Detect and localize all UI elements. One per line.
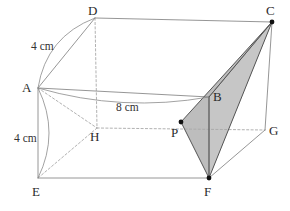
vertex-label-e: E xyxy=(32,185,40,198)
vertex-dot-C xyxy=(270,20,275,25)
hidden-edge-AH xyxy=(38,88,97,128)
vertex-label-f: F xyxy=(204,185,211,198)
cuboid-diagram: ABCDEFGHP4 cm4 cm8 cm xyxy=(0,0,290,211)
hidden-edge-HG xyxy=(97,128,265,130)
vertex-dot-P xyxy=(179,120,184,125)
vertex-label-h: H xyxy=(90,130,99,143)
diagram-canvas xyxy=(0,0,290,211)
dimension-label-ae-length: 4 cm xyxy=(14,133,37,145)
dimension-label-ab-length: 8 cm xyxy=(116,102,139,114)
vertex-label-a: A xyxy=(22,81,31,94)
edge-AD xyxy=(38,18,95,88)
dimension-arc-ae-length xyxy=(38,88,49,178)
hidden-edge-DH xyxy=(95,18,97,128)
edge-AB xyxy=(38,88,209,97)
dimension-label-ad-length: 4 cm xyxy=(31,41,54,53)
vertex-label-d: D xyxy=(88,4,97,17)
edge-DC xyxy=(95,18,272,22)
vertex-label-g: G xyxy=(269,124,278,137)
edge-CG xyxy=(265,22,272,130)
vertex-dot-F xyxy=(207,176,212,181)
vertex-label-b: B xyxy=(213,90,222,103)
dimension-arcs xyxy=(38,18,209,178)
shaded-section-fill xyxy=(181,22,272,178)
vertex-label-c: C xyxy=(266,4,275,17)
vertex-label-p: P xyxy=(171,126,178,139)
